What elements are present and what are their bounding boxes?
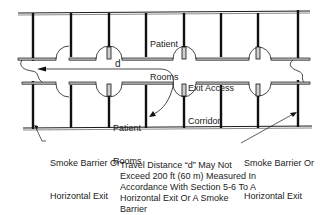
label-line: Corridor — [188, 116, 234, 127]
travel-arrowhead-icon — [37, 67, 46, 72]
note-line: Accordance With Section 5-6 To A — [120, 182, 256, 193]
note-line: Horizontal Exit Or A Smoke — [120, 193, 256, 204]
note-line: Exceed 200 ft (60 m) Measured In — [120, 171, 256, 182]
smoke-barrier-door-left — [21, 60, 42, 82]
door-leaves — [107, 47, 260, 96]
label-line: Smoke Barrier Or — [50, 158, 120, 169]
label-line: Patient — [150, 39, 179, 50]
smoke-barrier-left-label: Smoke Barrier Or Horizontal Exit — [50, 136, 120, 213]
label-line: Exit Access — [188, 83, 234, 94]
right-leader-arrowhead-icon — [290, 112, 297, 117]
patient-rooms-top-label: Patient Rooms — [150, 17, 179, 94]
note-line: Barrier — [120, 204, 256, 215]
smoke-barrier-door-right — [290, 60, 304, 82]
note-line: Travel Distance “d” May Not — [120, 160, 256, 171]
label-line: Horizontal Exit — [50, 191, 120, 202]
label-line: Rooms — [150, 72, 179, 83]
travel-distance-note: Travel Distance “d” May Not Exceed 200 f… — [120, 160, 256, 215]
label-line: Patient — [113, 123, 142, 134]
corridor-label: Exit Access Corridor — [188, 61, 234, 138]
rooms-arrowhead-icon — [149, 111, 156, 117]
distance-marker-label: d — [115, 58, 121, 69]
top-exterior-wall — [18, 11, 310, 15]
